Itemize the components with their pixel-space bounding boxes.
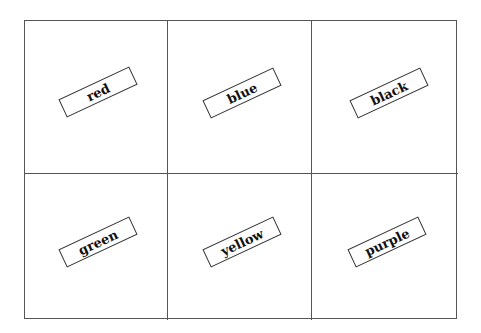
word-label: red — [58, 66, 137, 117]
word-card-grid: red blue black green yellow purple — [24, 20, 457, 319]
word-label: purple — [347, 216, 426, 267]
word-label: blue — [202, 67, 281, 118]
grid-cell: red — [25, 21, 168, 174]
grid-cell: black — [312, 21, 458, 174]
word-label: black — [349, 67, 428, 118]
grid-cell: blue — [168, 21, 312, 174]
word-label: green — [58, 216, 137, 267]
grid-cell: green — [25, 174, 168, 320]
grid-cell: yellow — [168, 174, 312, 320]
grid-cell: purple — [312, 174, 458, 320]
word-label: yellow — [202, 216, 281, 267]
